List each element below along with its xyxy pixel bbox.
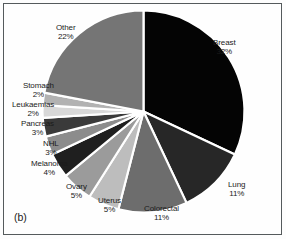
pie-slice-other[interactable] [44,11,143,112]
pie-chart-svg [0,0,286,239]
pie-chart: Breast 32% Lung 11% Colorectal 11% Uteru… [0,0,286,239]
pie-slice-group [43,10,245,212]
panel-label: (b) [14,211,27,223]
figure-panel: Breast 32% Lung 11% Colorectal 11% Uteru… [0,0,286,239]
